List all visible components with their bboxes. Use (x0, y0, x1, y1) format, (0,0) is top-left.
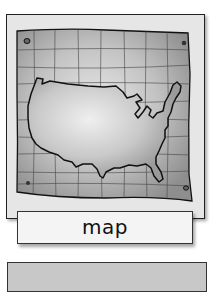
card-label: map (82, 217, 128, 237)
pin-icon (182, 41, 187, 46)
next-card[interactable] (7, 262, 207, 292)
pin-icon (26, 181, 30, 185)
card-label-box[interactable]: map (17, 211, 193, 244)
us-map-icon (6, 14, 205, 219)
pin-icon (24, 39, 30, 44)
pin-icon (184, 186, 189, 190)
